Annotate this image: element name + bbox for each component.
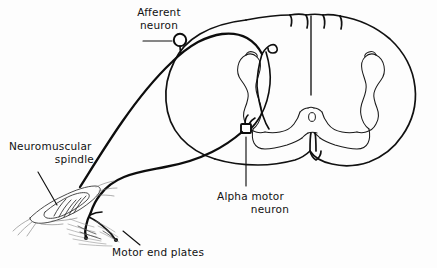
label-neuromuscular-spindle-line2: spindle [55,153,94,165]
figure-root: Afferent neuron Neuromuscular spindle Al… [0,0,437,268]
label-neuromuscular-spindle-line1: Neuromuscular [9,140,92,152]
reflex-arc-diagram: Afferent neuron Neuromuscular spindle Al… [0,0,437,268]
leader-neuromuscular-spindle [38,172,57,205]
leader-motor-end-plates [123,231,140,245]
label-motor-end-plates: Motor end plates [112,246,204,258]
spinal-cord-outline [166,14,416,165]
label-motor-end-plates-line1: Motor end plates [112,246,204,258]
label-neuromuscular-spindle: Neuromuscular spindle [9,140,94,165]
central-canal [309,113,316,122]
label-alpha-motor-neuron-line1: Alpha motor [217,190,284,202]
motor-end-plates [67,212,119,246]
label-alpha-motor-neuron: Alpha motor neuron [217,190,289,215]
label-afferent-neuron: Afferent neuron [137,6,181,31]
label-afferent-neuron-line2: neuron [140,19,178,31]
label-alpha-motor-neuron-line2: neuron [251,203,289,215]
label-afferent-neuron-line1: Afferent [137,6,181,18]
